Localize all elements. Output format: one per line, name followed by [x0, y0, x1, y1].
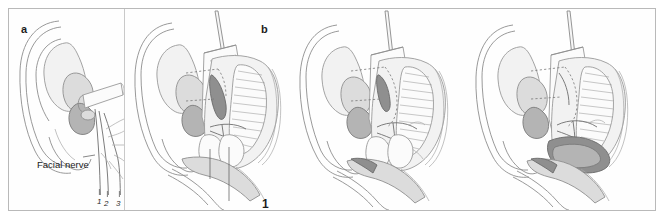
panel-a: a Facial nerve 1 2 3: [9, 9, 124, 210]
step-number-1: 1: [262, 197, 269, 210]
panel-b-step-1: b Sinus Facial nerve 1: [126, 9, 289, 210]
panel-b1-illustration: [126, 9, 289, 210]
panel-divider: [124, 9, 125, 210]
panel-a-letter: a: [21, 23, 27, 35]
label-facial-nerve-panel-a: Facial nerve: [37, 159, 89, 170]
panel-a-illustration: [9, 9, 124, 210]
nerve-branch-number-1: 1: [97, 197, 101, 206]
nerve-branch-number-3: 3: [116, 199, 120, 208]
figure-plate: a Facial nerve 1 2 3: [0, 0, 665, 221]
panel-b-step-3: 3: [463, 9, 655, 210]
nerve-branch-number-2: 2: [104, 199, 108, 208]
panel-b-step-2: 2: [289, 9, 463, 210]
panel-b2-illustration: [289, 9, 463, 210]
panel-b3-illustration: [463, 9, 655, 210]
panel-b-letter: b: [261, 23, 268, 35]
